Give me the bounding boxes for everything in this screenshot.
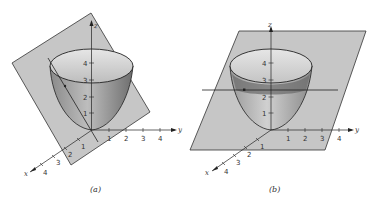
svg-text:2: 2	[83, 94, 87, 102]
svg-text:2: 2	[262, 94, 266, 102]
svg-text:2: 2	[68, 151, 72, 159]
y-axis-label: y	[177, 126, 183, 134]
figure-b-graphic: z 1 2 3 4 y 1 2 3 4	[185, 0, 375, 202]
svg-text:1: 1	[262, 110, 266, 118]
svg-text:3: 3	[83, 77, 87, 85]
svg-text:3: 3	[56, 159, 60, 167]
svg-text:1: 1	[260, 143, 264, 151]
caption-b: (b)	[269, 185, 280, 194]
x-axis-label: x	[24, 170, 28, 178]
figure-b: z 1 2 3 4 y 1 2 3 4	[185, 0, 375, 202]
point-marker	[64, 85, 66, 87]
svg-text:2: 2	[247, 151, 251, 159]
svg-text:4: 4	[224, 168, 229, 176]
z-axis-label: z	[93, 22, 98, 30]
x-axis-label: x	[205, 169, 209, 177]
svg-text:4: 4	[43, 169, 48, 177]
y-axis-label: y	[354, 126, 360, 134]
svg-text:3: 3	[141, 135, 145, 143]
svg-text:1: 1	[83, 110, 87, 118]
svg-text:3: 3	[262, 77, 266, 85]
svg-text:3: 3	[320, 135, 324, 143]
point-marker	[243, 89, 245, 91]
svg-text:4: 4	[158, 135, 163, 143]
svg-text:2: 2	[303, 135, 307, 143]
svg-text:1: 1	[107, 135, 111, 143]
figure-a-graphic: z 1 2 3 4 y 1 2 3 4	[0, 0, 190, 202]
svg-text:2: 2	[124, 135, 128, 143]
svg-text:1: 1	[286, 135, 290, 143]
svg-text:4: 4	[262, 60, 267, 68]
figure-a: z 1 2 3 4 y 1 2 3 4	[0, 0, 190, 202]
caption-a: (a)	[90, 185, 101, 194]
svg-text:3: 3	[236, 159, 240, 167]
svg-text:4: 4	[83, 60, 88, 68]
svg-text:4: 4	[337, 135, 342, 143]
z-axis-label: z	[267, 21, 272, 29]
svg-text:1: 1	[81, 143, 85, 151]
